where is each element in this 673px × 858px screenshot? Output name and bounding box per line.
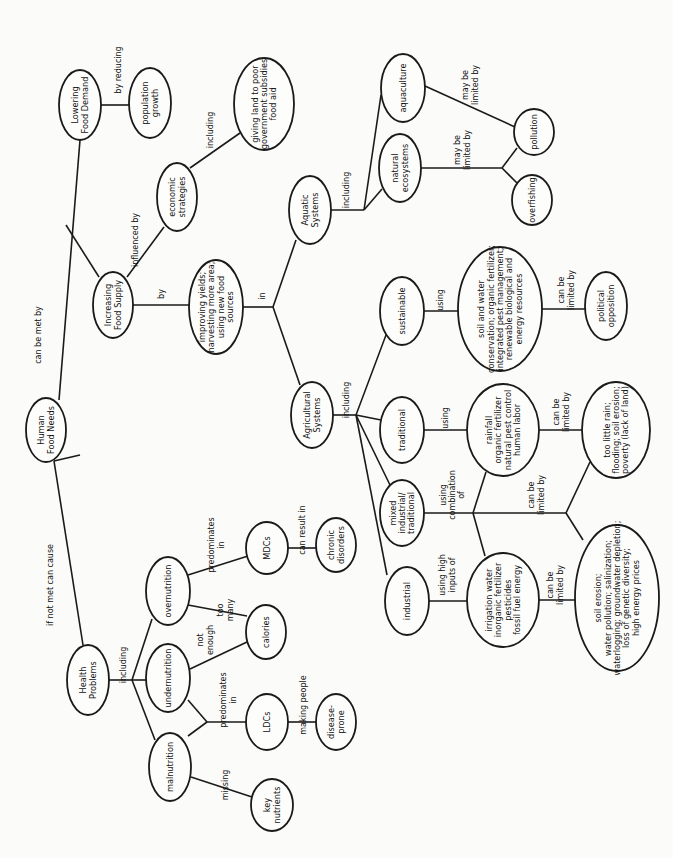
node-pollution[interactable]: pollution [514, 109, 554, 155]
text-line: limited by [463, 130, 472, 170]
edge-label: may belimited by [461, 65, 479, 105]
edge-label: toomany [216, 598, 234, 621]
node-label: undernutrition [163, 649, 173, 708]
connector-line [59, 140, 80, 400]
connector-line [188, 722, 207, 736]
svg-text:by: by [157, 289, 166, 299]
text-line: too [216, 603, 225, 616]
node-mdcs[interactable]: MDCs [246, 522, 288, 574]
text-line: nutrients [272, 787, 282, 824]
node-label: MDCs [262, 536, 272, 559]
edge-label: including [206, 112, 215, 148]
text-line: Problems [88, 661, 98, 699]
node-malnutrition[interactable]: malnutrition [149, 733, 191, 801]
text-line: not [196, 633, 205, 646]
node-label: irrigation waterinorganic fertilizerpest… [484, 562, 522, 637]
text-line: pollution [529, 114, 539, 150]
node-population-growth[interactable]: populationgrowth [129, 68, 171, 138]
node-agricultural-systems[interactable]: AgriculturalSystems [291, 382, 333, 448]
edge-label: by reducing [114, 46, 123, 93]
node-health-problems[interactable]: HealthProblems [67, 645, 109, 715]
edge-label: predominatesin [219, 672, 237, 727]
node-aquatic-systems[interactable]: AquaticSystems [289, 176, 331, 244]
node-giving-land[interactable]: giving land to poorgovernment subsidiesf… [234, 58, 294, 150]
node-key-nutrients[interactable]: keynutrients [251, 779, 293, 831]
edge-label: can belimited by [557, 270, 575, 310]
node-label: AgriculturalSystems [302, 391, 321, 438]
node-human-food-needs[interactable]: HumanFood Needs [26, 398, 66, 462]
edge-label: can belimited by [527, 475, 545, 515]
text-line: making people [299, 675, 308, 734]
edge-label: can result in [298, 505, 307, 554]
text-line: sustainable [397, 288, 407, 335]
text-line: strategies [177, 177, 187, 218]
svg-text:predominatesin: predominatesin [219, 672, 237, 727]
svg-text:missing: missing [221, 770, 230, 801]
node-mixed[interactable]: mixedindustrial/traditional [380, 480, 424, 546]
node-label: pollution [529, 114, 539, 150]
text-line: influenced by [131, 213, 140, 267]
edge-label: notenough [196, 625, 214, 655]
node-traditional[interactable]: traditional [380, 397, 424, 463]
text-line: including [206, 112, 215, 148]
connector-line [188, 700, 207, 722]
node-label: overnutrition [163, 564, 173, 617]
text-line: growth [150, 89, 160, 118]
node-economic-strategies[interactable]: economicstrategies [157, 163, 197, 231]
node-irrigation[interactable]: irrigation waterinorganic fertilizerpest… [467, 553, 539, 647]
node-undernutrition[interactable]: undernutrition [146, 644, 190, 712]
edge-label: influenced by [131, 213, 140, 267]
svg-text:including: including [342, 382, 351, 418]
text-line: calories [261, 616, 271, 648]
node-label: aquaculture [398, 63, 408, 112]
node-disease-prone[interactable]: disease-prone [316, 694, 356, 750]
edge-label: missing [221, 770, 230, 801]
node-overfishing[interactable]: overfishing [512, 175, 552, 225]
node-too-little-rain[interactable]: too little rain;flooding; soil erosion;p… [582, 382, 650, 478]
text-line: sources [225, 291, 235, 322]
svg-text:by reducing: by reducing [114, 46, 123, 93]
connector-line [502, 148, 517, 168]
text-line: using [439, 484, 448, 506]
connector-line [273, 307, 300, 385]
node-sustainable[interactable]: sustainable [380, 277, 424, 345]
node-increasing-food-supply[interactable]: IncreasingFood Supply [93, 272, 133, 338]
text-line: limited by [556, 565, 565, 605]
text-line: Food Needs [46, 406, 56, 454]
node-calories[interactable]: calories [246, 605, 286, 659]
node-chronic-disorders[interactable]: chronicdisorders [316, 518, 356, 572]
node-aquaculture[interactable]: aquaculture [381, 54, 425, 122]
edge-label: including [342, 382, 351, 418]
node-rainfall[interactable]: rainfallorganic fertilizernatural pest c… [467, 384, 539, 476]
connector-line [356, 415, 381, 420]
connector-line [566, 462, 590, 513]
text-line: limited by [562, 392, 571, 432]
node-label: industrial [402, 582, 412, 620]
text-line: including [119, 647, 128, 683]
node-label: overfishing [527, 177, 537, 223]
svg-text:can belimited by: can belimited by [527, 475, 545, 515]
text-line: human labor [512, 403, 522, 456]
node-political-opposition[interactable]: politicalopposition [585, 272, 627, 340]
text-line: Systems [310, 193, 320, 228]
node-improving-yields[interactable]: improving yields;harvesting more area;us… [189, 260, 243, 354]
svg-text:including: including [206, 112, 215, 148]
node-natural-ecosystems[interactable]: naturalecosystems [379, 134, 421, 202]
text-line: limited by [567, 270, 576, 310]
node-industrial[interactable]: industrial [385, 567, 429, 635]
node-label: economicstrategies [167, 177, 186, 218]
node-soil-water-conservation[interactable]: soil and waterconservation; organic fert… [458, 245, 542, 373]
connector-line [473, 472, 486, 513]
node-label: chronicdisorders [326, 526, 345, 564]
text-line: disorders [336, 526, 346, 564]
node-lowering-food-demand[interactable]: LoweringFood Demand [59, 70, 101, 140]
text-line: energy resources [514, 274, 524, 345]
node-soil-erosion-list[interactable]: soil erosion;water pollution; salinizati… [575, 520, 659, 675]
node-overnutrition[interactable]: overnutrition [146, 557, 190, 625]
text-line: using [441, 407, 450, 429]
text-line: can be [546, 571, 555, 598]
text-line: by reducing [114, 46, 123, 93]
text-line: Food Demand [80, 77, 90, 134]
node-ldcs[interactable]: LDCs [246, 694, 288, 750]
text-line: traditional [406, 492, 416, 534]
